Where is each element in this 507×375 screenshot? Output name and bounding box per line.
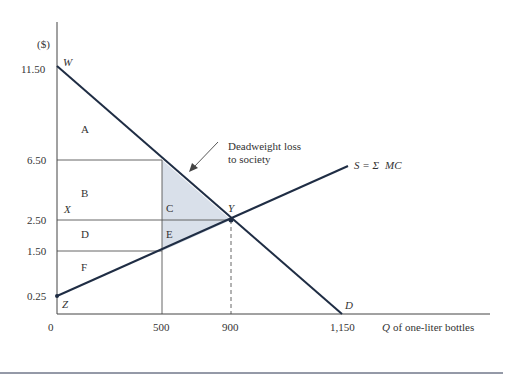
- region-a: A: [81, 123, 89, 135]
- region-b: B: [81, 187, 88, 199]
- point-z: Z: [62, 298, 69, 310]
- z-point: [55, 294, 59, 298]
- x-tick-1150: 1,150: [330, 321, 355, 333]
- supply-label: S = Σ: [354, 159, 379, 171]
- region-d: D: [81, 228, 89, 240]
- x-tick-500: 500: [153, 321, 170, 333]
- dwl-label-line1: Deadweight loss: [228, 140, 301, 152]
- dwl-label-line2: to society: [228, 153, 271, 165]
- deadweight-loss-chart: ($) 11.50 6.50 2.50 1.50 0.25 0 500 900 …: [0, 0, 507, 375]
- y-tick-11.50: 11.50: [21, 63, 46, 75]
- x-axis-q: Q: [382, 321, 390, 333]
- supply-curve: [57, 166, 348, 296]
- x-tick-900: 900: [222, 321, 239, 333]
- y-tick-2.50: 2.50: [27, 214, 47, 226]
- y-tick-6.50: 6.50: [27, 154, 47, 166]
- region-f: F: [81, 261, 87, 273]
- y-tick-1.50: 1.50: [27, 245, 47, 257]
- equilibrium-point: [229, 218, 234, 223]
- x-axis-label: of one-liter bottles: [393, 321, 474, 333]
- region-c: C: [166, 202, 173, 214]
- point-x: X: [63, 203, 72, 215]
- supply-label-mc: MC: [384, 159, 402, 171]
- point-d: D: [344, 299, 353, 311]
- region-e: E: [166, 228, 173, 240]
- point-w: W: [63, 56, 73, 68]
- y-tick-0.25: 0.25: [27, 290, 47, 302]
- annotation-arrow: [194, 142, 218, 167]
- y-unit-label: ($): [37, 38, 50, 51]
- x-tick-0: 0: [48, 321, 54, 333]
- point-y: Y: [228, 202, 236, 214]
